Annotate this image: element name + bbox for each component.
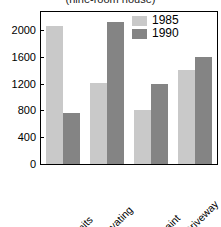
bar-1985-prints-permits <box>46 26 63 164</box>
y-tick-mark <box>40 57 44 58</box>
bar-1990-prints-permits <box>63 113 80 164</box>
y-tick-mark <box>40 30 44 31</box>
chart-title: (nine-room house) <box>0 0 221 5</box>
legend-label-1990: 1990 <box>152 27 179 40</box>
bar-chart-figure: (nine-room house) 0400800120016002000 Pr… <box>0 0 221 227</box>
bar-1990-excavating <box>107 22 124 164</box>
legend-swatch-1990 <box>132 29 147 39</box>
y-tick-label: 400 <box>0 132 36 143</box>
x-tick-label: Exterior Paint <box>130 213 182 227</box>
legend-item-1990: 1990 <box>132 27 179 40</box>
y-tick-label: 1600 <box>0 52 36 63</box>
chart-legend: 1985 1990 <box>130 12 182 42</box>
bar-1985-excavating <box>90 83 107 164</box>
y-tick-label: 800 <box>0 105 36 116</box>
y-tick-mark <box>40 110 44 111</box>
x-tick-label: Driveway <box>182 199 220 227</box>
plot-area <box>41 12 217 164</box>
bar-group <box>85 12 129 164</box>
bar-1990-exterior-paint <box>151 84 168 164</box>
legend-swatch-1985 <box>132 16 147 26</box>
y-axis: 0400800120016002000 <box>0 11 36 165</box>
y-tick-mark <box>40 137 44 138</box>
y-tick-label: 1200 <box>0 79 36 90</box>
x-tick-label: Prints/Permits <box>41 214 95 227</box>
bar-1985-driveway <box>178 70 195 164</box>
y-tick-mark <box>40 84 44 85</box>
bar-1985-exterior-paint <box>134 110 151 164</box>
x-axis: Prints/PermitsExcavatingExterior PaintDr… <box>41 166 217 227</box>
y-tick-label: 0 <box>0 159 36 170</box>
x-tick-label: Excavating <box>91 204 135 227</box>
bar-group <box>41 12 85 164</box>
y-tick-mark <box>40 164 44 165</box>
y-tick-label: 2000 <box>0 25 36 36</box>
bar-1990-driveway <box>195 57 212 164</box>
